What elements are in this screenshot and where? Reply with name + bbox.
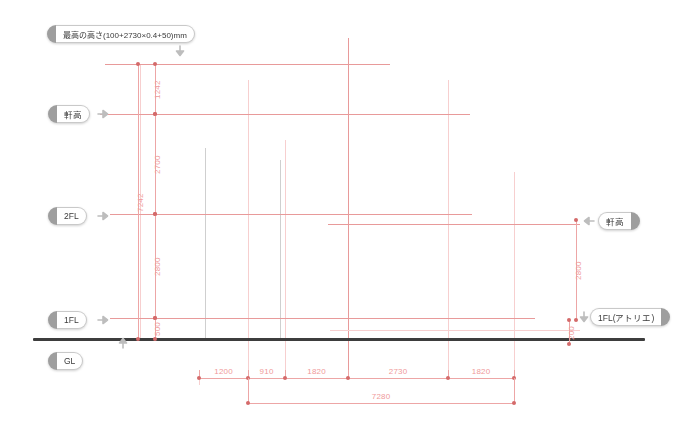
pill-tab [47, 25, 56, 43]
dimension-endpoint [246, 401, 250, 405]
dimension-endpoint [446, 376, 450, 380]
dimension-endpoint [153, 337, 157, 341]
grid-line-c [248, 80, 249, 378]
pill-tab [661, 308, 670, 326]
second-floor-line [110, 214, 472, 215]
level-label-eaves-height-right[interactable]: 軒高 [598, 212, 640, 230]
first-floor-arrow-icon [97, 314, 109, 326]
dimension-total-line [248, 403, 514, 404]
dimension-endpoint [283, 376, 287, 380]
column-line-1 [205, 148, 206, 340]
max-height-line [105, 64, 390, 65]
level-label-first-floor-atelier[interactable]: 1FL(アトリエ) [590, 308, 670, 326]
level-label-text: 軒高 [57, 105, 90, 123]
dimension-endpoint [574, 218, 578, 222]
dimension-endpoint [567, 342, 571, 346]
eaves-left-arrow-icon [97, 108, 109, 120]
pill-tab [48, 105, 57, 123]
level-label-text: 1FL [57, 311, 87, 329]
second-floor-arrow-icon [97, 210, 109, 222]
column-line-2 [280, 160, 281, 340]
first-floor-line [110, 318, 535, 319]
dimension-total-value: 7280 [372, 392, 391, 401]
level-label-text: 最高の高さ(100+2730×0.4+50)mm [56, 25, 195, 43]
level-label-second-floor[interactable]: 2FL [48, 207, 87, 225]
dimension-value: 2700 [153, 156, 162, 175]
level-label-text: 1FL(アトリエ) [590, 308, 661, 326]
level-label-text: 軒高 [598, 212, 631, 230]
dimension-endpoint [197, 376, 201, 380]
atelier-arrow-icon [578, 311, 590, 323]
dimension-value: 1200 [214, 367, 233, 376]
dimension-value: 2800 [153, 258, 162, 277]
max-height-arrow-icon [174, 45, 186, 57]
dimension-value: 1820 [307, 367, 326, 376]
eaves-right-arrow-icon [583, 215, 595, 227]
level-label-text: 2FL [57, 207, 87, 225]
dimension-endpoint [346, 376, 350, 380]
dimension-value: 500 [153, 322, 162, 336]
dimension-value: 1820 [472, 367, 491, 376]
grid-line-e [348, 38, 349, 378]
dimension-endpoint [153, 212, 157, 216]
dimension-value: 200 [567, 326, 576, 340]
dimension-endpoint [136, 337, 140, 341]
dimension-value: 2800 [574, 262, 583, 281]
pill-tab [48, 207, 57, 225]
level-label-max-height[interactable]: 最高の高さ(100+2730×0.4+50)mm [47, 25, 195, 43]
grid-line-g [514, 172, 515, 378]
level-label-first-floor[interactable]: 1FL [48, 311, 87, 329]
grid-line-f [448, 80, 449, 378]
dimension-endpoint [153, 112, 157, 116]
level-label-eaves-height-left[interactable]: 軒高 [48, 105, 90, 123]
grid-line-d [285, 140, 286, 378]
level-label-text: GL [57, 352, 83, 370]
dimension-total-tick [514, 378, 515, 403]
pill-tab [48, 352, 57, 370]
ground-level-arrow-icon [117, 337, 129, 349]
dimension-value: 910 [260, 367, 274, 376]
atelier-floor-line [330, 330, 580, 331]
pill-tab [631, 212, 640, 230]
pill-tab [48, 311, 57, 329]
dimension-endpoint [136, 62, 140, 66]
dimension-endpoint [567, 318, 571, 322]
architectural-section-drawing: 1242270028005007242 2800200 120091018202… [0, 0, 692, 430]
dimension-endpoint [512, 401, 516, 405]
level-label-ground-level[interactable]: GL [48, 352, 83, 370]
dimension-total-tick [248, 378, 249, 403]
dimension-endpoint [153, 62, 157, 66]
dimension-value: 7242 [136, 193, 145, 212]
dimension-value: 2730 [389, 367, 408, 376]
dimension-value: 1242 [153, 81, 162, 100]
eaves-right-line [328, 224, 580, 225]
dimension-endpoint [153, 316, 157, 320]
